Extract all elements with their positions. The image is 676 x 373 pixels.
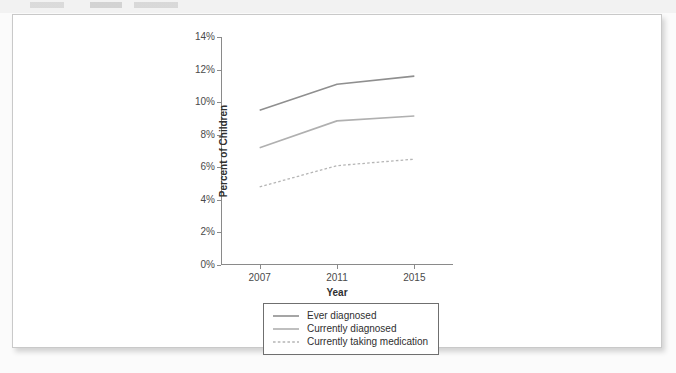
chart-figure: 0%2%4%6%8%10%12%14% 200720112015 Percent… [163, 19, 493, 364]
y-tick-label: 10% [195, 97, 215, 107]
plot-area: 0%2%4%6%8%10%12%14% 200720112015 Percent… [221, 37, 453, 265]
legend-line-swatch [272, 311, 300, 321]
legend-item[interactable]: Currently diagnosed [272, 322, 430, 335]
y-tick-label: 0% [201, 260, 215, 270]
x-tick-mark [337, 265, 338, 269]
legend-label: Currently diagnosed [307, 324, 397, 334]
y-tick-label: 4% [201, 195, 215, 205]
x-tick-label: 2015 [403, 273, 425, 283]
backdrop-top-strip [0, 0, 676, 13]
series-line [260, 76, 415, 110]
backdrop-text-smudge [30, 2, 260, 8]
chart-legend: Ever diagnosedCurrently diagnosedCurrent… [263, 303, 439, 355]
series-lines [221, 37, 453, 265]
y-tick-label: 2% [201, 227, 215, 237]
legend-label: Currently taking medication [307, 337, 428, 347]
y-tick-label: 8% [201, 130, 215, 140]
y-tick-label: 12% [195, 65, 215, 75]
y-tick-label: 14% [195, 32, 215, 42]
series-line [260, 116, 415, 148]
y-tick-label: 6% [201, 162, 215, 172]
document-page: 0%2%4%6%8%10%12%14% 200720112015 Percent… [12, 14, 662, 348]
legend-item[interactable]: Ever diagnosed [272, 309, 430, 322]
legend-item[interactable]: Currently taking medication [272, 335, 430, 348]
x-tick-mark [414, 265, 415, 269]
series-line [260, 159, 415, 187]
legend-line-swatch [272, 324, 300, 334]
x-axis-title: Year [326, 287, 347, 298]
legend-label: Ever diagnosed [307, 311, 377, 321]
x-tick-mark [260, 265, 261, 269]
x-tick-label: 2007 [249, 273, 271, 283]
legend-line-swatch [272, 337, 300, 347]
x-tick-label: 2011 [326, 273, 348, 283]
y-tick-mark [217, 265, 221, 266]
